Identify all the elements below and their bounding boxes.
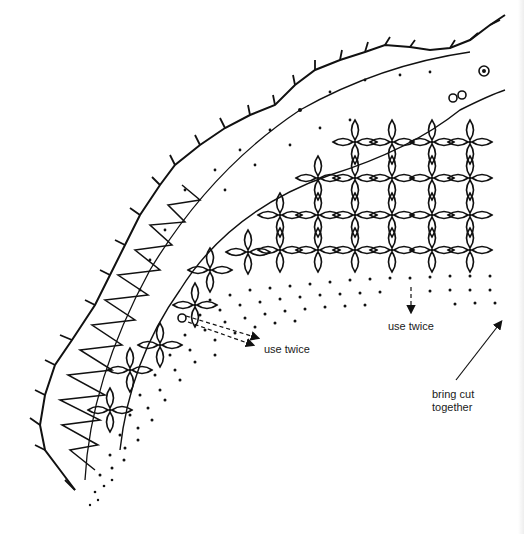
picot-edge bbox=[30, 15, 505, 490]
lace-pattern-diagram bbox=[0, 0, 524, 534]
open-dotted-band bbox=[139, 71, 432, 292]
arrow-bring-cut bbox=[456, 322, 501, 380]
annotation-arrows bbox=[186, 287, 501, 380]
page-edge bbox=[518, 0, 524, 534]
ring-motifs bbox=[178, 66, 489, 322]
label-use-twice-left: use twice bbox=[264, 343, 310, 356]
label-bring-cut-together: bring cut together bbox=[432, 388, 474, 414]
leaf-grid bbox=[88, 120, 492, 432]
label-use-twice-right: use twice bbox=[388, 320, 434, 333]
arrow-use-twice-left-2 bbox=[186, 316, 258, 338]
